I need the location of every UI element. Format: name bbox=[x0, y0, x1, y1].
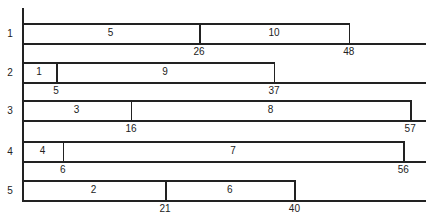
row-baseline bbox=[22, 200, 426, 202]
segment-top-border bbox=[22, 141, 403, 143]
segment-top-border bbox=[22, 180, 294, 182]
time-tick-label: 48 bbox=[334, 46, 364, 57]
segment-end-divider bbox=[349, 23, 351, 43]
time-tick-label: 56 bbox=[388, 164, 418, 175]
time-tick-label: 16 bbox=[116, 123, 146, 134]
segment-end-divider bbox=[294, 180, 296, 200]
segment-label: 3 bbox=[22, 104, 131, 115]
segment-end-divider bbox=[403, 141, 405, 161]
time-tick-label: 37 bbox=[259, 85, 289, 96]
row-baseline bbox=[22, 120, 426, 122]
segment-label: 9 bbox=[56, 66, 274, 77]
segment-label: 6 bbox=[165, 184, 294, 195]
segment-label: 2 bbox=[22, 184, 165, 195]
segment-label: 7 bbox=[63, 145, 404, 156]
segment-label: 10 bbox=[199, 27, 349, 38]
row-baseline bbox=[22, 82, 426, 84]
row-label: 3 bbox=[5, 105, 15, 116]
segment-label: 5 bbox=[22, 27, 199, 38]
segment-label: 8 bbox=[131, 104, 410, 115]
segment-end-divider bbox=[274, 62, 276, 82]
time-tick-label: 57 bbox=[395, 123, 425, 134]
time-tick-label: 40 bbox=[279, 203, 309, 214]
segment-end-divider bbox=[410, 100, 412, 120]
segment-top-border bbox=[22, 100, 410, 102]
gantt-diagram: 1526104821593733168574467565221640 bbox=[0, 0, 437, 221]
row-baseline bbox=[22, 43, 426, 45]
time-tick-label: 5 bbox=[41, 85, 71, 96]
row-label: 4 bbox=[5, 146, 15, 157]
row-label: 2 bbox=[5, 67, 15, 78]
segment-label: 1 bbox=[22, 66, 56, 77]
segment-top-border bbox=[22, 62, 274, 64]
row-label: 5 bbox=[5, 185, 15, 196]
segment-label: 4 bbox=[22, 145, 63, 156]
time-tick-label: 26 bbox=[184, 46, 214, 57]
time-tick-label: 6 bbox=[48, 164, 78, 175]
row-baseline bbox=[22, 161, 426, 163]
row-label: 1 bbox=[5, 28, 15, 39]
time-tick-label: 21 bbox=[150, 203, 180, 214]
segment-top-border bbox=[22, 23, 349, 25]
